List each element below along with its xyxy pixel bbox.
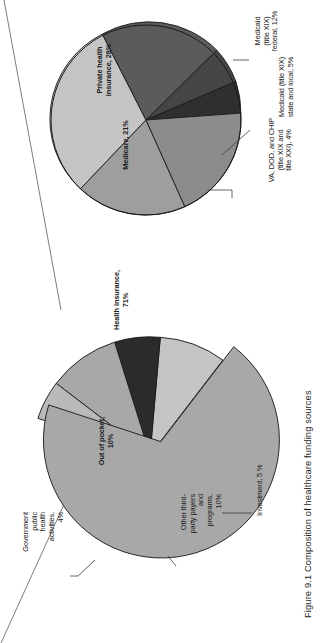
main-label-other-third-party: Other third- party payers and programs, …: [180, 494, 224, 566]
figure-container: Private health insurance, 28% Medicare, …: [0, 0, 323, 643]
detail-label-medicaid-federal: Medicaid (title XIX) federal, 12%: [254, 2, 280, 60]
main-pie-chart: [36, 334, 285, 565]
connector-line-upper: [4, 0, 61, 310]
main-label-government-public-health: Government public health activities, 4%: [22, 512, 66, 572]
detail-label-private-health-insurance: Private health insurance, 28%: [96, 22, 113, 118]
figure-caption: Figure 9.1 Composition of healthcare fun…: [302, 346, 313, 618]
main-label-investment: Investment, 5 %: [256, 444, 265, 516]
detail-label-medicare: Medicare, 21%: [122, 102, 131, 188]
main-label-health-insurance: Health insurance, 71%: [113, 252, 130, 348]
leader-va-dod-chip: [208, 190, 232, 198]
main-label-out-of-pocket: Out of pocket, 10%: [98, 399, 115, 483]
leader-government-public-health: [70, 560, 95, 576]
detail-label-va-dod-chip: VA, DOD, and CHIP (title XIX and title X…: [268, 102, 294, 198]
detail-pie-chart: [50, 22, 241, 215]
